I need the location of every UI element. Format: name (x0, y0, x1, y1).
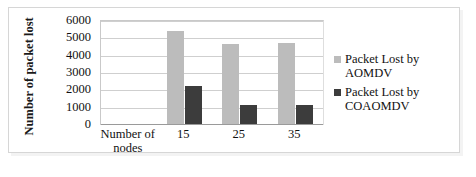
x-axis-tick-label: 35 (267, 127, 323, 141)
bar (296, 105, 313, 125)
plot-area (100, 20, 324, 125)
x-axis-tick-label: 15 (156, 127, 212, 141)
chart-legend: Packet Lost by AOMDVPacket Lost by COAOM… (334, 52, 460, 118)
y-axis-tick-label: 3000 (66, 66, 91, 78)
x-axis-line (101, 124, 323, 125)
bars-layer (101, 21, 323, 125)
bar (222, 44, 239, 125)
x-axis-labels: Number of nodes152535 (48, 127, 328, 155)
bar-group (167, 21, 202, 125)
y-axis-tick-labels: 0100020003000400050006000 (48, 20, 94, 124)
legend-item-label: Packet Lost by COAOMDV (345, 85, 453, 113)
bar (278, 43, 295, 125)
bar-group (222, 21, 257, 125)
y-axis-tick-label: 4000 (66, 49, 91, 61)
bar (185, 86, 202, 125)
chart-figure: Number of packet lost 010002000300040005… (0, 0, 476, 177)
bar (167, 31, 184, 125)
legend-item[interactable]: Packet Lost by AOMDV (334, 52, 460, 80)
bar (240, 105, 257, 125)
y-axis-title: Number of packet lost (12, 16, 46, 136)
y-axis-tick-label: 6000 (66, 14, 91, 26)
y-axis-title-text: Number of packet lost (23, 17, 36, 135)
x-axis-category-title: Number of nodes (100, 127, 156, 155)
bar-group (278, 21, 313, 125)
y-axis-tick-label: 2000 (66, 83, 91, 95)
legend-swatch-icon (334, 89, 341, 96)
legend-item-label: Packet Lost by AOMDV (345, 52, 453, 80)
legend-item[interactable]: Packet Lost by COAOMDV (334, 85, 460, 113)
y-axis-tick-label: 5000 (66, 31, 91, 43)
y-axis-tick-label: 1000 (66, 101, 91, 113)
x-axis-tick-label: 25 (211, 127, 267, 141)
legend-swatch-icon (334, 56, 341, 63)
